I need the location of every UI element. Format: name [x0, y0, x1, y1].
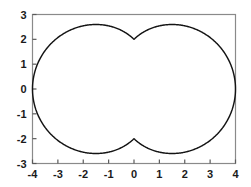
x-tick-label: 2 [182, 168, 188, 180]
x-axis-tick-marks [33, 160, 236, 164]
y-tick-label: -1 [17, 108, 27, 120]
y-axis-tick-labels: -3-2-10123 [17, 9, 27, 170]
x-tick-label: 1 [156, 168, 162, 180]
y-tick-label: 1 [20, 58, 26, 70]
x-tick-label: 4 [232, 168, 239, 180]
chart-figure: -4-3-2-101234 -3-2-10123 [0, 0, 251, 187]
plot-canvas: -4-3-2-101234 -3-2-10123 [0, 0, 251, 187]
data-curve [33, 24, 236, 153]
y-tick-label: -3 [17, 158, 27, 170]
x-tick-label: -4 [28, 168, 39, 180]
axis-frame [33, 15, 236, 164]
y-tick-label: -2 [17, 133, 27, 145]
x-tick-label: -1 [104, 168, 114, 180]
x-tick-label: -2 [78, 168, 88, 180]
x-tick-label: 3 [207, 168, 213, 180]
y-tick-label: 0 [20, 83, 26, 95]
x-tick-label: -3 [53, 168, 63, 180]
x-axis-tick-labels: -4-3-2-101234 [28, 168, 240, 180]
plot-area: -4-3-2-101234 -3-2-10123 [17, 9, 240, 180]
x-tick-label: 0 [131, 168, 137, 180]
y-tick-label: 3 [20, 9, 26, 21]
y-tick-label: 2 [20, 33, 26, 45]
